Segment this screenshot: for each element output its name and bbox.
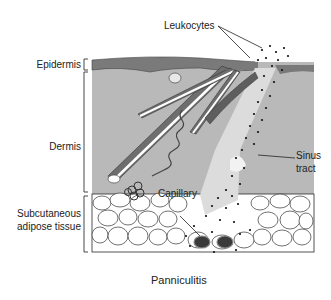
- label-subcutaneous-1: Subcutaneous: [0, 208, 81, 220]
- label-capillary: Capillary: [158, 188, 197, 200]
- layer-brackets: [84, 59, 88, 252]
- label-epidermis: Epidermis: [0, 59, 81, 71]
- label-tract: tract: [296, 163, 315, 175]
- label-leukocytes: Leukocytes: [164, 20, 215, 32]
- figure-title: Panniculitis: [151, 274, 207, 286]
- label-dermis: Dermis: [0, 141, 81, 153]
- label-subcutaneous-2: adipose tissue: [0, 221, 81, 233]
- label-sinus: Sinus: [296, 150, 321, 162]
